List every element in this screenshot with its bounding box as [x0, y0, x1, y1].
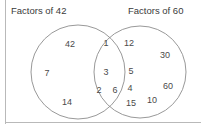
- right-only-15: 15: [126, 99, 136, 108]
- left-only-42: 42: [65, 40, 75, 49]
- right-only-10: 10: [147, 96, 157, 105]
- intersection-1: 1: [103, 39, 108, 48]
- right-only-60: 60: [163, 82, 173, 91]
- intersection-6: 6: [112, 86, 117, 95]
- right-only-4: 4: [127, 84, 132, 93]
- left-only-7: 7: [44, 69, 49, 78]
- right-only-5: 5: [128, 67, 133, 76]
- right-only-30: 30: [160, 51, 170, 60]
- right-only-12: 12: [124, 39, 134, 48]
- venn-circles: [0, 0, 202, 131]
- left-only-14: 14: [62, 98, 72, 107]
- intersection-3: 3: [103, 68, 108, 77]
- intersection-2: 2: [96, 86, 101, 95]
- venn-diagram-screenshot: Factors of 42 Factors of 60 427141326123…: [0, 0, 202, 131]
